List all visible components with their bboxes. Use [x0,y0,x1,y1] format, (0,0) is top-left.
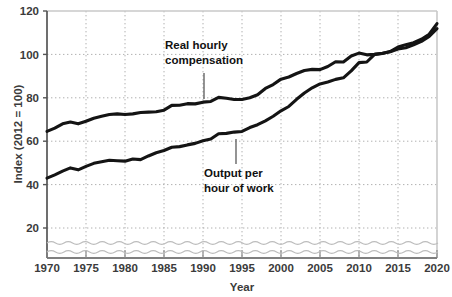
x-tick-label: 1995 [229,262,255,274]
y-axis-title: Index (2012 = 100) [12,84,24,183]
x-tick-label: 1970 [34,262,60,274]
y-tick-label: 40 [26,179,39,191]
x-tick-label: 2020 [424,262,450,274]
y-tick-label: 100 [20,49,39,61]
x-tick-labels: 1970197519801985199019952000200520102015… [34,262,450,274]
annotation-real-hourly-compensation-line2: compensation [165,54,243,66]
y-tick-label: 60 [26,135,39,147]
x-tick-label: 2000 [268,262,294,274]
x-tick-label: 2005 [307,262,333,274]
chart-container: 20406080100120 1970197519801985199019952… [0,0,452,297]
line-chart: 20406080100120 1970197519801985199019952… [0,0,452,297]
annotation-real-hourly-compensation-line1: Real hourly [165,39,228,51]
x-tick-label: 1980 [112,262,138,274]
x-tick-label: 1985 [151,262,177,274]
x-tick-label: 2015 [385,262,411,274]
y-tick-label: 20 [26,222,39,234]
y-tick-label: 120 [20,5,39,17]
x-tick-label: 1990 [190,262,216,274]
y-tick-label: 80 [26,92,39,104]
x-tick-label: 2010 [346,262,372,274]
x-tick-label: 1975 [73,262,99,274]
annotation-output-per-hour-line1: Output per [204,167,263,179]
x-axis-title: Year [230,281,255,293]
annotation-output-per-hour-line2: hour of work [204,182,274,194]
